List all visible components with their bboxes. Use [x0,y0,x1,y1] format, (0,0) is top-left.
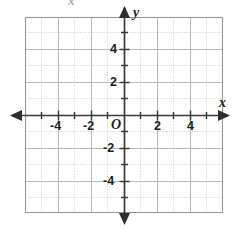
coordinate-grid-figure: x [0,0,240,233]
origin-label: O [111,118,121,132]
y-tick-label-4: 4 [110,43,117,56]
y-tick-label-neg2: -2 [103,142,114,155]
arrow-up-icon [119,6,130,18]
x-tick-label-4: 4 [187,120,194,133]
x-tick-label-neg2: -2 [83,120,94,133]
axis-lines [12,8,228,222]
y-tick-label-2: 2 [110,76,117,89]
x-tick-label-2: 2 [154,120,161,133]
x-axis-label: x [219,96,226,110]
arrow-down-icon [119,213,130,225]
arrow-left-icon [10,110,22,121]
arrow-right-icon [218,110,230,121]
y-axis-label: y [133,6,139,20]
y-tick-label-neg4: -4 [103,175,114,188]
x-tick-label-neg4: -4 [50,120,61,133]
